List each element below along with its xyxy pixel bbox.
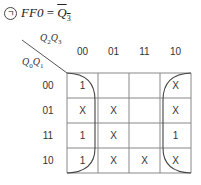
kmap-cell: X [98, 123, 129, 148]
kmap-cell: 1 [67, 123, 98, 148]
kmap-cell [98, 73, 129, 98]
kmap-cell [129, 123, 160, 148]
kmap-cell: 1 [160, 123, 191, 148]
kmap-cell: X [98, 98, 129, 123]
kmap-cell: 1 [67, 73, 98, 98]
kmap-cell [129, 98, 160, 123]
kmap-cell: X [160, 98, 191, 123]
kmap-cell: X [67, 98, 98, 123]
kmap-cell: X [160, 73, 191, 98]
kmap-cell: X [98, 148, 129, 173]
kmap-cell: 1 [67, 148, 98, 173]
kmap-cell [129, 73, 160, 98]
kmap-cell: X [160, 148, 191, 173]
diagonal-divider [22, 40, 67, 73]
kmap-cell: X [129, 148, 160, 173]
